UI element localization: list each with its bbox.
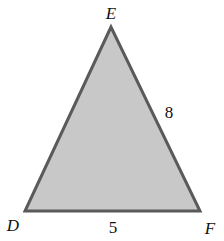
vertex-label-f: F: [204, 219, 216, 238]
side-label-ef: 8: [165, 103, 174, 122]
triangle-def: [25, 27, 200, 211]
vertex-label-d: D: [6, 216, 20, 235]
triangle-diagram: E D F 8 5: [0, 0, 224, 241]
vertex-label-e: E: [105, 4, 117, 23]
side-label-df: 5: [109, 218, 118, 237]
